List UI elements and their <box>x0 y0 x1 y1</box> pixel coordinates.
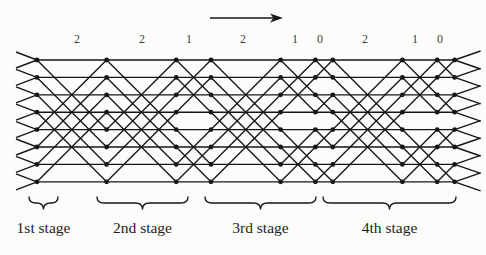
distance-label: 2 <box>139 32 145 46</box>
stage-brace <box>97 197 188 210</box>
node-dot <box>174 162 179 167</box>
node-dot <box>174 92 179 97</box>
node-dot <box>104 75 109 80</box>
node-dot <box>452 145 457 150</box>
output-stub <box>455 60 481 69</box>
node-dot <box>35 145 40 150</box>
node-dot <box>104 58 109 63</box>
node-dot <box>452 110 457 115</box>
distance-label: 2 <box>362 32 368 46</box>
input-stub <box>16 69 37 77</box>
node-dot <box>330 58 335 63</box>
node-dot <box>278 162 283 167</box>
node-dot <box>313 92 318 97</box>
node-dot <box>35 58 40 63</box>
distance-label: 1 <box>412 32 418 46</box>
distance-labels: 221210210 <box>74 32 443 46</box>
node-dot <box>400 75 405 80</box>
distance-label: 0 <box>317 32 323 46</box>
edge-fan-stubs <box>16 51 481 191</box>
output-stub <box>455 77 481 86</box>
node-dot <box>435 127 440 132</box>
node-dot <box>209 162 214 167</box>
node-dot <box>400 179 405 184</box>
input-stub <box>16 164 37 172</box>
node-dot <box>435 58 440 63</box>
node-dot <box>435 110 440 115</box>
distance-label: 1 <box>292 32 298 46</box>
node-dot <box>278 179 283 184</box>
crossing-lines <box>37 60 455 182</box>
output-stub <box>455 121 481 130</box>
input-stub <box>16 104 37 112</box>
input-stub <box>16 147 37 155</box>
node-dot <box>452 58 457 63</box>
node-dot <box>435 162 440 167</box>
node-dot <box>35 110 40 115</box>
output-stub <box>455 95 481 104</box>
output-stub <box>455 112 481 121</box>
node-dot <box>278 75 283 80</box>
stage-brace <box>29 197 58 210</box>
input-stub <box>16 52 37 60</box>
node-dot <box>313 75 318 80</box>
network-diagram: 221210210 1st stage2nd stage3rd stage4th… <box>0 0 486 255</box>
node-dot <box>452 179 457 184</box>
output-stub <box>455 147 481 156</box>
node-dot <box>435 75 440 80</box>
node-dot <box>209 75 214 80</box>
node-dot <box>313 110 318 115</box>
node-dot <box>452 162 457 167</box>
distance-label: 2 <box>74 32 80 46</box>
stage-braces <box>29 197 456 210</box>
node-dot <box>209 145 214 150</box>
input-stub <box>16 139 37 147</box>
output-stub <box>455 86 481 95</box>
node-dot <box>313 127 318 132</box>
input-stub <box>16 60 37 68</box>
output-stub <box>455 130 481 139</box>
node-dot <box>209 92 214 97</box>
node-dot <box>35 92 40 97</box>
node-dot <box>35 75 40 80</box>
node-dot <box>330 75 335 80</box>
input-stub <box>16 112 37 120</box>
node-dot <box>400 127 405 132</box>
node-dot <box>209 179 214 184</box>
node-dot <box>400 110 405 115</box>
node-dot <box>104 127 109 132</box>
node-dot <box>330 127 335 132</box>
node-dot <box>400 162 405 167</box>
distance-label: 2 <box>240 32 246 46</box>
stage-label: 2nd stage <box>113 219 172 236</box>
node-dot <box>174 58 179 63</box>
output-stub <box>455 51 481 60</box>
node-dot <box>313 162 318 167</box>
stage-label: 1st stage <box>17 219 71 236</box>
node-dot <box>174 75 179 80</box>
node-dot <box>35 179 40 184</box>
node-dot <box>174 110 179 115</box>
node-dot <box>435 145 440 150</box>
distance-label: 1 <box>186 32 192 46</box>
node-dot <box>330 179 335 184</box>
node-dot <box>313 145 318 150</box>
input-stub <box>16 95 37 103</box>
node-dot <box>330 92 335 97</box>
node-dot <box>209 110 214 115</box>
node-dot <box>104 110 109 115</box>
node-dot <box>104 179 109 184</box>
network-figure: 221210210 1st stage2nd stage3rd stage4th… <box>0 0 486 255</box>
node-dot <box>313 179 318 184</box>
node-dot <box>400 145 405 150</box>
node-dot <box>278 127 283 132</box>
output-stub <box>455 103 481 112</box>
input-stub <box>16 122 37 130</box>
flow-arrow <box>210 13 283 22</box>
output-stub <box>455 68 481 77</box>
node-dot <box>330 110 335 115</box>
input-stub <box>16 77 37 85</box>
node-dot <box>435 92 440 97</box>
node-dot <box>104 145 109 150</box>
input-stub <box>16 156 37 164</box>
